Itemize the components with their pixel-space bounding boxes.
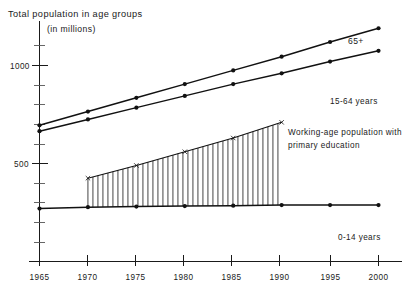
data-point-marker: [183, 204, 187, 208]
series-line: [40, 51, 379, 131]
population-age-groups-chart: Total population in age groups (in milli…: [0, 0, 410, 289]
x-tick-label-1970: 1970: [78, 273, 98, 282]
series-label-working-age-line1: Working-age population with: [288, 128, 402, 137]
x-tick-label-1965: 1965: [30, 273, 50, 282]
data-point-marker: [280, 71, 284, 75]
data-point-marker: [328, 40, 332, 44]
data-point-marker: [37, 123, 41, 127]
plot-data-layer: [37, 26, 380, 211]
chart-subtitle: (in millions): [47, 24, 96, 34]
data-point-marker: [86, 109, 90, 113]
series-0-14-years: [37, 203, 380, 211]
data-point-marker: [37, 206, 41, 210]
data-point-marker: [231, 82, 235, 86]
data-point-marker: [231, 204, 235, 208]
y-tick-label-1000: 1000: [10, 62, 30, 71]
x-axis-ticks: [40, 255, 379, 266]
x-tick-label-1975: 1975: [126, 273, 146, 282]
data-point-marker: [328, 203, 332, 207]
y-tick-label-500: 500: [14, 160, 29, 169]
data-point-marker: [134, 205, 138, 209]
x-tick-label-1995: 1995: [321, 273, 341, 282]
data-point-marker: [183, 94, 187, 98]
x-tick-label-1980: 1980: [174, 273, 194, 282]
data-point-marker: [280, 55, 284, 59]
hatched-area-working-age: [86, 120, 284, 207]
data-point-marker: [376, 26, 380, 30]
chart-figure: Total population in age groups (in milli…: [0, 0, 410, 289]
data-point-marker: [86, 205, 90, 209]
data-point-marker: [134, 96, 138, 100]
series-label-15-64: 15-64 years: [330, 97, 378, 106]
data-point-marker: [134, 106, 138, 110]
series-15-64-years: [37, 49, 380, 134]
chart-title: Total population in age groups: [8, 9, 143, 19]
data-point-marker: [376, 203, 380, 207]
series-label-working-age-line2: primary education: [288, 141, 360, 150]
data-point-marker: [328, 59, 332, 63]
data-point-marker: [86, 117, 90, 121]
x-tick-label-1990: 1990: [270, 273, 290, 282]
series-line: [40, 205, 379, 209]
data-point-marker: [183, 82, 187, 86]
data-point-marker: [280, 203, 284, 207]
x-tick-label-1985: 1985: [222, 273, 242, 282]
x-tick-label-2000: 2000: [369, 273, 389, 282]
series-label-65plus: 65+: [348, 36, 364, 46]
series-label-0-14: 0-14 years: [338, 233, 381, 242]
series-line: [40, 28, 379, 125]
data-point-marker: [37, 129, 41, 133]
data-point-marker: [231, 68, 235, 72]
series-65: [37, 26, 380, 127]
data-point-marker: [376, 49, 380, 53]
